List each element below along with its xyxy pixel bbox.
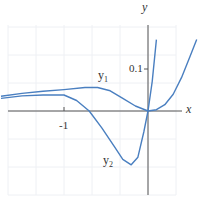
chart-plot xyxy=(0,0,203,206)
series-label-y2: y2 xyxy=(103,153,113,169)
series-line-y2 xyxy=(1,40,156,165)
x-tick-label: -1 xyxy=(59,119,68,131)
series-label-y1: y1 xyxy=(98,68,108,84)
y-tick-label: 0.1 xyxy=(129,62,143,74)
y-axis-label: y xyxy=(142,0,147,15)
x-axis-label: x xyxy=(186,102,191,117)
